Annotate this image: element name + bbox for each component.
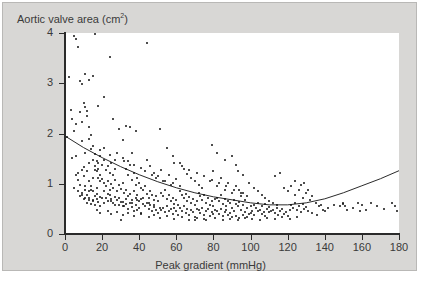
data-point bbox=[196, 200, 198, 202]
data-point bbox=[198, 184, 200, 186]
data-point bbox=[155, 177, 157, 179]
data-point bbox=[155, 209, 157, 211]
x-axis-tick-label: 80 bbox=[198, 241, 228, 253]
data-point bbox=[83, 166, 85, 168]
y-axis-tick bbox=[59, 184, 64, 185]
data-point bbox=[235, 164, 237, 166]
data-point bbox=[79, 80, 81, 82]
data-point bbox=[125, 168, 127, 170]
data-point bbox=[153, 172, 155, 174]
data-point bbox=[94, 169, 96, 171]
data-point bbox=[142, 189, 144, 191]
data-point bbox=[224, 159, 226, 161]
data-point bbox=[205, 210, 207, 212]
x-axis-tick-label: 140 bbox=[310, 241, 340, 253]
data-point bbox=[138, 182, 140, 184]
data-point bbox=[92, 75, 94, 77]
data-point bbox=[209, 215, 211, 217]
y-axis-tick bbox=[59, 83, 64, 84]
data-point bbox=[237, 219, 239, 221]
data-point bbox=[233, 210, 235, 212]
data-point bbox=[361, 204, 363, 206]
data-point bbox=[281, 208, 283, 210]
data-point bbox=[276, 207, 278, 209]
data-point bbox=[133, 172, 135, 174]
data-point bbox=[96, 170, 98, 172]
y-axis-tick-label: 4 bbox=[31, 26, 53, 38]
data-point bbox=[107, 180, 109, 182]
plot-area bbox=[65, 33, 399, 234]
data-point bbox=[172, 197, 174, 199]
x-axis-tick-label: 120 bbox=[273, 241, 303, 253]
data-point bbox=[96, 198, 98, 200]
data-point bbox=[79, 184, 81, 186]
data-point bbox=[289, 209, 291, 211]
x-axis-tick-label: 0 bbox=[50, 241, 80, 253]
data-point bbox=[127, 208, 129, 210]
data-point bbox=[294, 194, 296, 196]
data-point bbox=[81, 194, 83, 196]
data-point bbox=[133, 164, 135, 166]
data-point bbox=[300, 184, 302, 186]
data-point bbox=[346, 209, 348, 211]
data-point bbox=[107, 200, 109, 202]
data-point bbox=[307, 210, 309, 212]
data-point bbox=[77, 179, 79, 181]
data-point bbox=[279, 172, 281, 174]
data-point bbox=[66, 136, 68, 138]
y-axis-tick bbox=[59, 234, 64, 235]
data-point bbox=[181, 210, 183, 212]
data-point bbox=[203, 194, 205, 196]
data-point bbox=[198, 192, 200, 194]
data-point bbox=[231, 207, 233, 209]
data-point bbox=[153, 206, 155, 208]
data-point bbox=[181, 194, 183, 196]
data-point bbox=[90, 148, 92, 150]
data-point bbox=[118, 204, 120, 206]
y-axis-tick bbox=[59, 33, 64, 34]
data-point bbox=[283, 187, 285, 189]
data-point bbox=[103, 182, 105, 184]
data-point bbox=[242, 192, 244, 194]
data-point bbox=[75, 174, 77, 176]
data-point bbox=[233, 189, 235, 191]
data-point bbox=[185, 193, 187, 195]
data-point bbox=[114, 168, 116, 170]
data-point bbox=[229, 202, 231, 204]
data-point bbox=[153, 204, 155, 206]
data-point bbox=[268, 200, 270, 202]
x-axis-tick bbox=[399, 235, 400, 240]
figure-container: Aortic valve area (cm2) 01234 0204060801… bbox=[0, 0, 421, 283]
data-point bbox=[153, 214, 155, 216]
data-point bbox=[135, 130, 137, 132]
data-point bbox=[255, 207, 257, 209]
data-point bbox=[237, 170, 239, 172]
data-point bbox=[109, 172, 111, 174]
data-point bbox=[77, 172, 79, 174]
data-point bbox=[274, 212, 276, 214]
y-axis-tick-label: 1 bbox=[31, 177, 53, 189]
data-point bbox=[168, 194, 170, 196]
data-point bbox=[148, 208, 150, 210]
data-point bbox=[146, 42, 148, 44]
x-axis-tick bbox=[139, 235, 140, 240]
data-point bbox=[68, 76, 70, 78]
data-point bbox=[207, 197, 209, 199]
x-axis-tick-label: 100 bbox=[236, 241, 266, 253]
data-point bbox=[96, 193, 98, 195]
data-point bbox=[192, 198, 194, 200]
data-point bbox=[73, 35, 75, 37]
data-point bbox=[259, 209, 261, 211]
data-point bbox=[105, 169, 107, 171]
data-point bbox=[246, 207, 248, 209]
data-point bbox=[231, 216, 233, 218]
data-point bbox=[300, 211, 302, 213]
x-axis-tick bbox=[65, 235, 66, 240]
data-point bbox=[248, 182, 250, 184]
data-point bbox=[170, 208, 172, 210]
data-point bbox=[287, 215, 289, 217]
data-point bbox=[140, 213, 142, 215]
data-point bbox=[77, 190, 79, 192]
y-axis-tick-label: 3 bbox=[31, 76, 53, 88]
data-point bbox=[192, 211, 194, 213]
